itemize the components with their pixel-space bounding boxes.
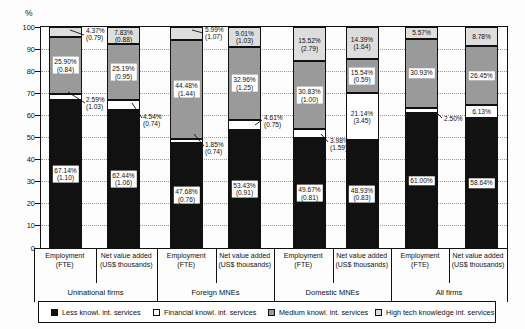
y-axis-tick-label: 10: [11, 221, 35, 230]
x-axis-bar-label: Employment(FTE): [34, 252, 96, 269]
bar-segment-label: 6.13%: [472, 108, 491, 115]
bar-segment-financial: [293, 129, 326, 138]
legend-label: Less knowl. int. services: [62, 308, 141, 317]
callout-label: 2.50%: [444, 115, 463, 122]
y-axis-tick-label: 30: [11, 177, 35, 186]
x-axis-bar-label: Employment(FTE): [391, 252, 449, 269]
bar-segment-label: 30.93%: [408, 69, 434, 78]
legend-item: Less knowl. int. services: [51, 302, 141, 322]
bar-segment-label: 44.48%(1.44): [173, 81, 199, 98]
table-group-separator: [507, 249, 508, 302]
callout-label: 4.61%(0.75): [264, 114, 283, 129]
legend-label: High tech knowledge int. services: [386, 308, 494, 317]
y-axis-tick-mark: [35, 203, 40, 204]
bar-segment-label: 25.90%(0.84): [52, 57, 78, 74]
bar-segment-financial: [228, 120, 261, 130]
x-axis-group-label: Foreign MNEs: [157, 288, 274, 297]
bar-segment-hightech: [170, 27, 203, 40]
legend-item: Financial knowl. int. services: [153, 302, 256, 322]
bar-segment-label: 48.93%(0.83): [349, 186, 375, 203]
x-axis-line: [34, 248, 508, 249]
bar-segment-label: 49.67%(0.81): [296, 185, 322, 202]
x-axis-group-label: Domestic MNEs: [274, 288, 391, 297]
y-axis-tick-label: 20: [11, 199, 35, 208]
bar-segment-label: 53.43%(0.91): [231, 181, 257, 198]
y-axis-tick-label: 50: [11, 133, 35, 142]
legend-label: Medium knowl. int. services: [279, 308, 368, 317]
bar-segment-financial: [170, 139, 203, 143]
y-axis-tick-mark: [35, 115, 40, 116]
bar-segment-financial: [405, 108, 438, 114]
y-axis-tick-mark: [35, 93, 40, 94]
legend-box: Less knowl. int. servicesFinancial knowl…: [38, 301, 496, 323]
y-axis-tick-label: 90: [11, 45, 35, 54]
x-axis-bar-label: Net value added(US$ thousands): [333, 252, 392, 269]
bar-segment-label: 61.00%: [408, 176, 434, 185]
x-axis-group-label: All firms: [391, 288, 507, 297]
y-axis-tick-mark: [35, 49, 40, 50]
bar-segment-hightech: [49, 27, 82, 37]
x-axis-bar-label: Net value added(US$ thousands): [216, 252, 275, 269]
callout-label: 3.98%(1.59): [330, 137, 349, 152]
bar-segment-label: 32.96%(1.25): [231, 75, 257, 92]
legend-item: High tech knowledge int. services: [375, 302, 494, 322]
y-axis-tick-label: 0: [11, 244, 35, 253]
x-axis-bar-label: Net value added(US$ thousands): [96, 252, 158, 269]
chart-canvas: 010203040506070809010067.14%(1.10)25.90%…: [0, 0, 525, 329]
x-axis-bar-label: Net value added(US$ thousands): [449, 252, 507, 269]
y-axis-tick-mark: [35, 181, 40, 182]
bar-segment-label: 58.64%: [468, 178, 494, 187]
y-axis-tick-label: 100: [11, 23, 35, 32]
bar-segment-label: 14.39%(1.64): [351, 35, 373, 50]
bar-segment-financial: [49, 94, 82, 100]
y-axis-tick-label: 60: [11, 111, 35, 120]
bar-segment-label: 15.52%(2.79): [298, 37, 320, 52]
x-axis-bar-label: Employment(FTE): [157, 252, 216, 269]
callout-label: 1.85%(0.74): [205, 141, 224, 156]
bar-segment-label: 8.78%: [472, 33, 491, 40]
callout-label: 5.99%(1.07): [205, 26, 224, 41]
bar-segment-financial: [107, 100, 140, 110]
y-axis-tick-label: 40: [11, 155, 35, 164]
legend-label: Financial knowl. int. services: [164, 308, 256, 317]
y-axis-tick-mark: [35, 159, 40, 160]
y-axis-tick-label: 70: [11, 89, 35, 98]
stacked-bar-figure: % 010203040506070809010067.14%(1.10)25.9…: [0, 0, 525, 329]
y-axis-tick-mark: [35, 248, 40, 249]
legend-marker-less-icon: [51, 309, 58, 316]
bar-segment-label: 30.83%(1.00): [296, 87, 322, 104]
legend-marker-medium-icon: [268, 309, 275, 316]
callout-label: 4.37%(0.79): [86, 27, 105, 42]
y-axis-tick-label: 80: [11, 67, 35, 76]
bar-segment-label: 26.45%: [468, 71, 494, 80]
callout-label: 2.59%(1.03): [86, 96, 105, 111]
x-axis-group-label: Uninational firms: [34, 288, 157, 297]
bar-segment-label: 9.01%(1.03): [235, 30, 254, 45]
legend-item: Medium knowl. int. services: [268, 302, 368, 322]
y-axis-line: [40, 26, 41, 248]
y-axis-tick-mark: [35, 71, 40, 72]
bar-segment-label: 25.19%(0.95): [110, 64, 136, 81]
plot-right-border: [507, 26, 508, 248]
legend-marker-financial-icon: [153, 309, 160, 316]
bar-segment-label: 5.57%: [412, 29, 431, 36]
bar-segment-label: 67.14%(1.10): [52, 165, 78, 182]
bar-segment-label: 21.14%(3.45): [351, 109, 373, 124]
y-axis-tick-mark: [35, 137, 40, 138]
callout-label: 4.54%(0.74): [143, 113, 162, 128]
bar-segment-label: 47.68%(0.76): [173, 187, 199, 204]
y-axis-tick-mark: [35, 27, 40, 28]
bar-segment-label: 15.54%(0.59): [349, 68, 375, 85]
x-axis-bar-label: Employment(FTE): [274, 252, 333, 269]
bar-segment-label: 62.44%(1.06): [110, 171, 136, 188]
legend-marker-hightech-icon: [375, 309, 382, 316]
y-axis-tick-mark: [35, 225, 40, 226]
bar-segment-label: 7.83%(0.88): [114, 28, 133, 43]
